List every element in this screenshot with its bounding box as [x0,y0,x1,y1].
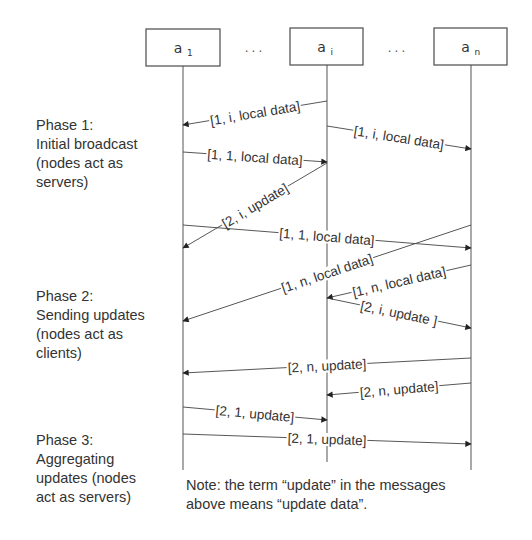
phase-1-label: Phase 1: Initial broadcast (nodes act as… [36,116,138,192]
footnote: Note: the term “update” in the messages … [186,476,446,514]
node-an: an [434,28,507,65]
message-arrow: [1, 1, local data] [183,147,327,169]
ellipsis: ... [388,41,408,55]
node-subscript: n [475,47,481,57]
nodes: a1aian...... [146,28,507,66]
message-label: [2, n, update] [359,379,439,400]
message-arrow: [1, i, local data] [183,98,327,128]
node-box [146,29,220,66]
message-arrow: [2, n, update] [327,379,471,401]
message-label: [1, n, local data] [351,264,447,300]
message-arrow: [2, 1, update] [183,431,471,449]
message-label: [2, i, update] [219,181,291,232]
node-box [434,28,507,65]
phase-3-label: Phase 3: Aggregating updates (nodes act … [36,431,136,507]
phase-2-label: Phase 2: Sending updates (nodes act as c… [36,287,145,363]
message-label: [1, i, local data] [353,123,445,152]
node-a1: a1 [146,29,220,66]
node-label: a [317,39,326,55]
message-label: [2, i, update ] [359,298,438,329]
message-label: [2, n, update] [287,356,366,375]
ellipsis: ... [245,41,265,55]
message-arrow: [2, n, update] [183,356,471,375]
node-subscript: i [331,47,334,57]
node-subscript: 1 [187,48,193,58]
message-label: [2, 1, update] [287,431,366,449]
node-box [290,28,363,65]
message-arrow: [1, i, local data] [327,123,471,152]
node-label: a [461,39,470,55]
message-arrow: [2, 1, update] [183,403,327,425]
message-label: [2, 1, update] [215,403,295,425]
node-label: a [174,40,183,56]
node-ai: ai [290,28,363,65]
message-label: [1, 1, local data] [207,147,303,169]
message-arrow: [2, i, update ] [327,298,471,329]
message-label: [1, i, local data] [209,99,301,129]
